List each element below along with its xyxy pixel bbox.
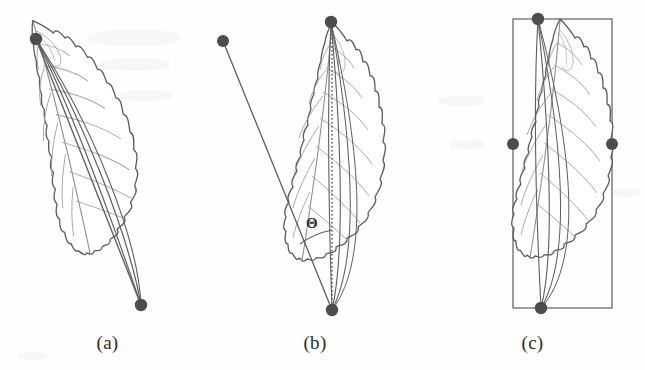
panel-a-caption: (a) xyxy=(0,332,215,354)
panel-c-drawing xyxy=(420,0,645,370)
panel-c-caption: (c) xyxy=(420,332,645,354)
panel-a: (a) xyxy=(0,0,215,370)
panel-b-caption: (b) xyxy=(200,332,430,354)
leaf-outline xyxy=(0,1,168,261)
panel-c: (c) xyxy=(420,0,645,370)
external-reference-point xyxy=(217,35,229,47)
leaf-a xyxy=(0,1,168,261)
leaf-tip-point xyxy=(30,33,42,45)
leaf-base-point xyxy=(326,304,338,316)
right-extremum-point xyxy=(606,138,618,150)
left-extremum-point xyxy=(507,138,519,150)
leaf-tip-point xyxy=(325,16,337,28)
leaf-tip-point xyxy=(532,13,544,25)
panel-a-drawing xyxy=(0,0,215,370)
panel-b-drawing xyxy=(200,0,430,370)
leaf-outline xyxy=(512,19,614,258)
leaf-c xyxy=(512,19,614,258)
leaf-base-point xyxy=(535,302,547,314)
leaf-base-point xyxy=(135,299,147,311)
panel-b: Θ (b) xyxy=(200,0,430,370)
figure-root: (a) xyxy=(0,0,645,370)
angle-theta-label: Θ xyxy=(306,215,318,232)
